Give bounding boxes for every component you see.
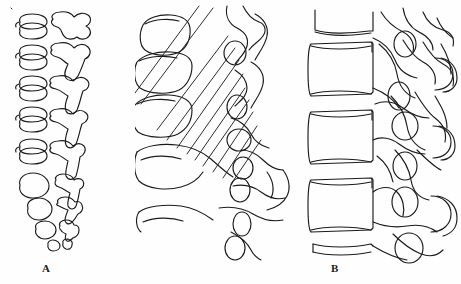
panel-c-drawing bbox=[295, 0, 461, 284]
vertebra-level-3 bbox=[16, 76, 89, 114]
foramen bbox=[392, 112, 418, 140]
figure-root: A bbox=[0, 0, 461, 284]
vertebra-level-2 bbox=[16, 43, 91, 81]
panel-label-a: A bbox=[42, 262, 50, 274]
panel-b: B bbox=[135, 0, 295, 284]
vertebra-level-8 bbox=[36, 220, 79, 241]
vertebra-level-7 bbox=[28, 197, 83, 224]
foramen bbox=[233, 157, 253, 179]
panel-c: C bbox=[295, 0, 461, 284]
vertebra-level-5 bbox=[16, 139, 86, 179]
panel-c-posterior-elements bbox=[373, 8, 454, 260]
foramen bbox=[392, 187, 418, 217]
panel-c-vertebral-bodies bbox=[308, 10, 373, 255]
foramen bbox=[225, 236, 245, 260]
panel-c-foramina bbox=[388, 31, 423, 263]
foramen bbox=[393, 152, 417, 180]
foramen bbox=[230, 178, 250, 202]
vertebra-level-4 bbox=[16, 107, 88, 148]
panel-a-drawing bbox=[0, 0, 135, 284]
vertebra-level-1 bbox=[16, 12, 91, 39]
foramen bbox=[224, 41, 246, 65]
panel-a: A bbox=[0, 0, 135, 284]
panel-b-drawing bbox=[135, 0, 295, 284]
foramen bbox=[233, 212, 251, 236]
stray-mark bbox=[11, 8, 12, 9]
